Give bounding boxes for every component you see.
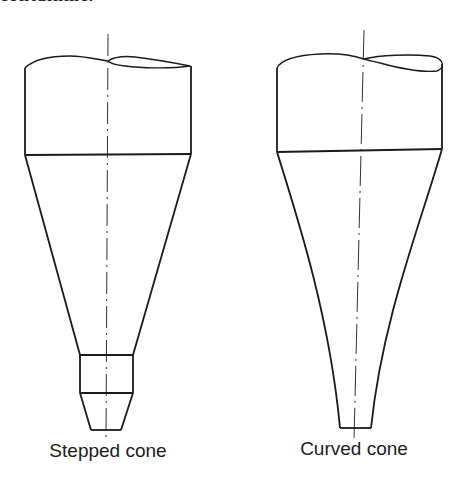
stepped-cone-figure [25, 34, 191, 442]
stepped-cone-label: Stepped cone [49, 440, 166, 462]
stepped-cone-right-side [133, 154, 191, 355]
stepped-centre-line [106, 34, 108, 442]
curved-cylinder-bottom-edge [277, 149, 442, 152]
frustum-right-side [121, 393, 133, 430]
curved-cone-left-side [277, 152, 340, 428]
frustum-left-side [80, 393, 91, 430]
curved-cylinder-top-break [277, 54, 442, 72]
curved-cone-label: Curved cone [300, 438, 408, 460]
curved-centre-line [354, 30, 364, 440]
curved-cone-figure [277, 30, 442, 440]
curved-cone-right-side [371, 149, 442, 428]
stepped-cone-left-side [25, 155, 80, 355]
cyclone-cone-diagram [0, 0, 463, 487]
stepped-cylinder-bottom-edge [25, 154, 191, 155]
